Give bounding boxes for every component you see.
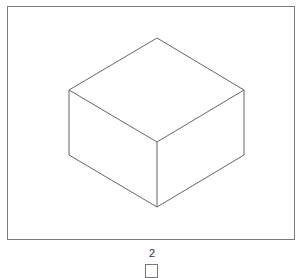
cube-edge-bottom-left	[69, 155, 157, 207]
option-label: 2	[146, 247, 158, 259]
cube-top-face	[69, 38, 244, 142]
cube-edge-bottom-right	[157, 155, 244, 207]
option-checkbox[interactable]	[145, 264, 158, 278]
